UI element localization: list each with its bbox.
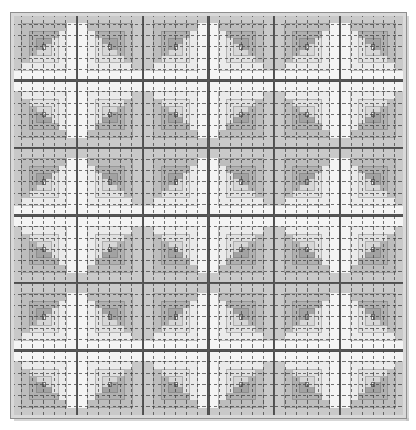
quilt-canvas (0, 0, 416, 430)
log-cabin-quilt-figure (0, 0, 416, 430)
